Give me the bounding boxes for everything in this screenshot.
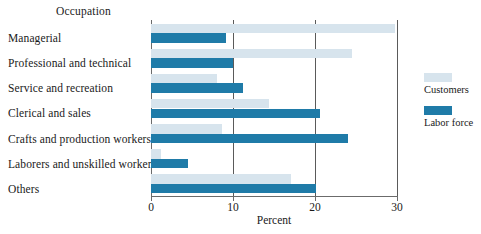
bar-labor-force bbox=[151, 159, 188, 168]
category-label: Managerial bbox=[8, 26, 61, 51]
category-label: Laborers and unskilled workers bbox=[8, 152, 156, 177]
category-label: Professional and technical bbox=[8, 51, 131, 76]
plot-area bbox=[151, 20, 397, 196]
category-label: Clerical and sales bbox=[8, 101, 91, 126]
y-axis-title: Occupation bbox=[56, 5, 111, 17]
x-tick-label: 10 bbox=[227, 201, 239, 213]
gridline-30 bbox=[397, 20, 398, 196]
bar-customers bbox=[151, 149, 161, 158]
x-tick-label: 0 bbox=[148, 201, 154, 213]
bar-customers bbox=[151, 99, 269, 108]
category-label: Crafts and production workers bbox=[8, 127, 151, 152]
category-label: Others bbox=[8, 177, 39, 202]
bar-chart: Occupation ManagerialProfessional and te… bbox=[0, 0, 481, 234]
legend-item: Customers bbox=[424, 73, 478, 95]
x-tick-label: 30 bbox=[391, 201, 403, 213]
legend-label: Customers bbox=[424, 84, 478, 95]
bar-customers bbox=[151, 24, 395, 33]
bar-group bbox=[151, 171, 397, 196]
legend-item: Labor force bbox=[424, 106, 478, 128]
bar-labor-force bbox=[151, 134, 348, 143]
bar-labor-force bbox=[151, 83, 243, 92]
bar-customers bbox=[151, 49, 352, 58]
bar-customers bbox=[151, 124, 222, 133]
legend-swatch-customers bbox=[424, 73, 452, 82]
x-tick-label: 20 bbox=[309, 201, 321, 213]
bar-group bbox=[151, 121, 397, 146]
bar-group bbox=[151, 45, 397, 70]
bar-group bbox=[151, 146, 397, 171]
category-label: Service and recreation bbox=[8, 76, 113, 101]
bar-group bbox=[151, 20, 397, 45]
bar-labor-force bbox=[151, 109, 320, 118]
bar-labor-force bbox=[151, 58, 233, 67]
legend-swatch-labor-force bbox=[424, 106, 452, 115]
legend-label: Labor force bbox=[424, 117, 478, 128]
x-axis-title: Percent bbox=[257, 214, 291, 226]
bar-labor-force bbox=[151, 184, 316, 193]
bar-group bbox=[151, 95, 397, 120]
bar-customers bbox=[151, 74, 217, 83]
bar-customers bbox=[151, 174, 291, 183]
bar-group bbox=[151, 70, 397, 95]
x-axis-line bbox=[151, 196, 398, 197]
legend: CustomersLabor force bbox=[424, 73, 478, 139]
category-label-list: ManagerialProfessional and technicalServ… bbox=[8, 26, 148, 196]
bar-labor-force bbox=[151, 33, 226, 42]
